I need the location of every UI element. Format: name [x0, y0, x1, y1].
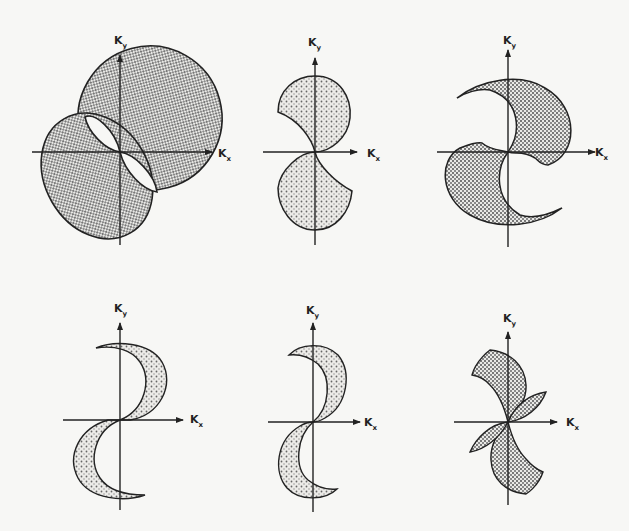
panel-4-crescent-bottom — [74, 420, 145, 499]
panel-1: Kx Ky — [19, 20, 248, 260]
figure-canvas: Kx Ky Kx Ky Kx Ky Kx Ky Kx Ky — [0, 0, 629, 531]
panel-5-crescent-bottom — [279, 422, 337, 498]
panel-3: Kx Ky — [437, 34, 609, 247]
panel-5-crescent-top — [289, 346, 346, 422]
panel-4-ky-label: Ky — [114, 302, 128, 318]
panel-3-kx-label: Kx — [595, 146, 609, 162]
panel-1-ky-label: Ky — [114, 34, 128, 50]
panel-6-kx-label: Kx — [566, 416, 580, 432]
panel-2-ky-label: Ky — [308, 36, 322, 52]
panel-2-lobe-top — [278, 76, 350, 152]
panel-4-kx-label: Kx — [190, 413, 204, 429]
panel-2-kx-label: Kx — [367, 147, 381, 163]
panel-5-ky-label: Ky — [306, 304, 320, 320]
panel-5-kx-label: Kx — [364, 416, 378, 432]
panel-4-crescent-top — [96, 344, 167, 420]
panel-6-ky-label: Ky — [503, 312, 517, 328]
panel-3-ky-label: Ky — [503, 34, 517, 50]
panel-1-kx-label: Kx — [218, 147, 232, 163]
panel-4: Kx Ky — [63, 302, 204, 510]
panel-5: Kx Ky — [268, 304, 378, 512]
panel-1-lobes — [19, 20, 248, 260]
panel-2: Kx Ky — [263, 36, 381, 245]
